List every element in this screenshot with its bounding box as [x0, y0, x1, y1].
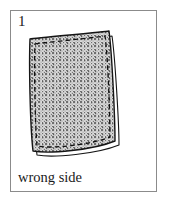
- fabric-illustration: [11, 11, 158, 193]
- fabric-main-panel: [30, 31, 115, 152]
- figure-frame: 1: [10, 10, 157, 192]
- figure-root: 1: [0, 0, 169, 206]
- caption-label: wrong side: [18, 169, 82, 186]
